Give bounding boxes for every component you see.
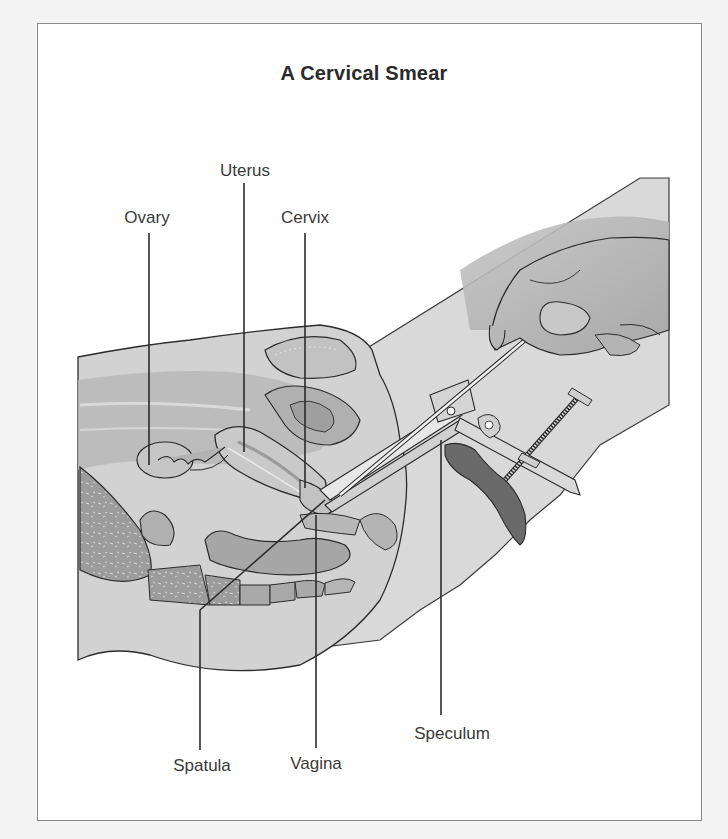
label-vagina: Vagina (290, 754, 342, 774)
cervical-smear-illustration (0, 0, 728, 839)
label-uterus: Uterus (220, 161, 270, 181)
label-ovary: Ovary (124, 208, 169, 228)
pelvis-cross-section (78, 325, 407, 671)
label-speculum: Speculum (414, 724, 490, 744)
label-cervix: Cervix (281, 208, 329, 228)
label-spatula: Spatula (173, 756, 231, 776)
